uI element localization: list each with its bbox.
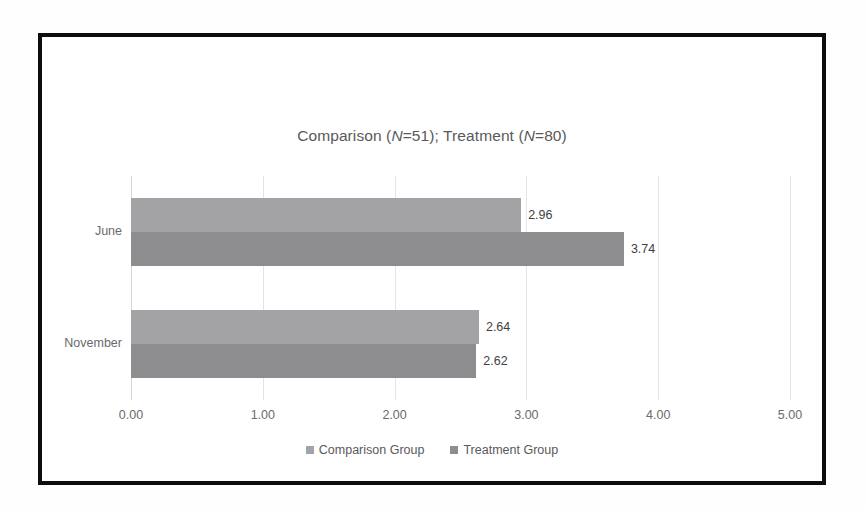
chart-title-segment-2: =51); Treatment ( [403,127,524,144]
bar-november-treatment-group [131,344,476,378]
bar-value-label-november-treatment-group: 2.62 [483,355,507,368]
category-label-november: November [64,336,122,350]
chart-legend: Comparison GroupTreatment Group [42,443,822,457]
x-tick-5.00: 5.00 [778,408,802,422]
legend-swatch-icon-treatment-group [450,446,458,454]
legend-label-treatment-group: Treatment Group [463,443,558,457]
scanned-page: Comparison (N=51); Treatment (N=80) June… [0,0,867,511]
bar-june-comparison-group [131,198,521,232]
x-tick-0.00: 0.00 [119,408,143,422]
gridline-4.00 [658,176,659,400]
x-tick-1.00: 1.00 [251,408,275,422]
bar-chart: Comparison (N=51); Treatment (N=80) June… [42,37,822,481]
chart-title-segment-1: Comparison ( [297,127,391,144]
chart-title-n-italic-2: N [524,127,535,144]
chart-title-n-italic-1: N [391,127,402,144]
bar-november-comparison-group [131,310,479,344]
legend-label-comparison-group: Comparison Group [319,443,425,457]
chart-title-segment-3: =80) [535,127,567,144]
x-tick-4.00: 4.00 [646,408,670,422]
gridline-5.00 [790,176,791,400]
bar-value-label-november-comparison-group: 2.64 [486,321,510,334]
category-label-june: June [95,224,122,238]
x-axis-tick-labels: 0.001.002.003.004.005.00 [131,408,790,426]
bar-june-treatment-group [131,232,624,266]
figure-frame-border: Comparison (N=51); Treatment (N=80) June… [38,33,826,485]
plot-area: June2.963.74November2.642.62 [131,176,790,400]
x-tick-3.00: 3.00 [514,408,538,422]
legend-item-comparison-group[interactable]: Comparison Group [306,443,425,457]
x-tick-2.00: 2.00 [382,408,406,422]
legend-swatch-icon-comparison-group [306,446,314,454]
bar-value-label-june-comparison-group: 2.96 [528,209,552,222]
bar-value-label-june-treatment-group: 3.74 [631,243,655,256]
legend-item-treatment-group[interactable]: Treatment Group [450,443,558,457]
chart-title: Comparison (N=51); Treatment (N=80) [42,127,822,145]
